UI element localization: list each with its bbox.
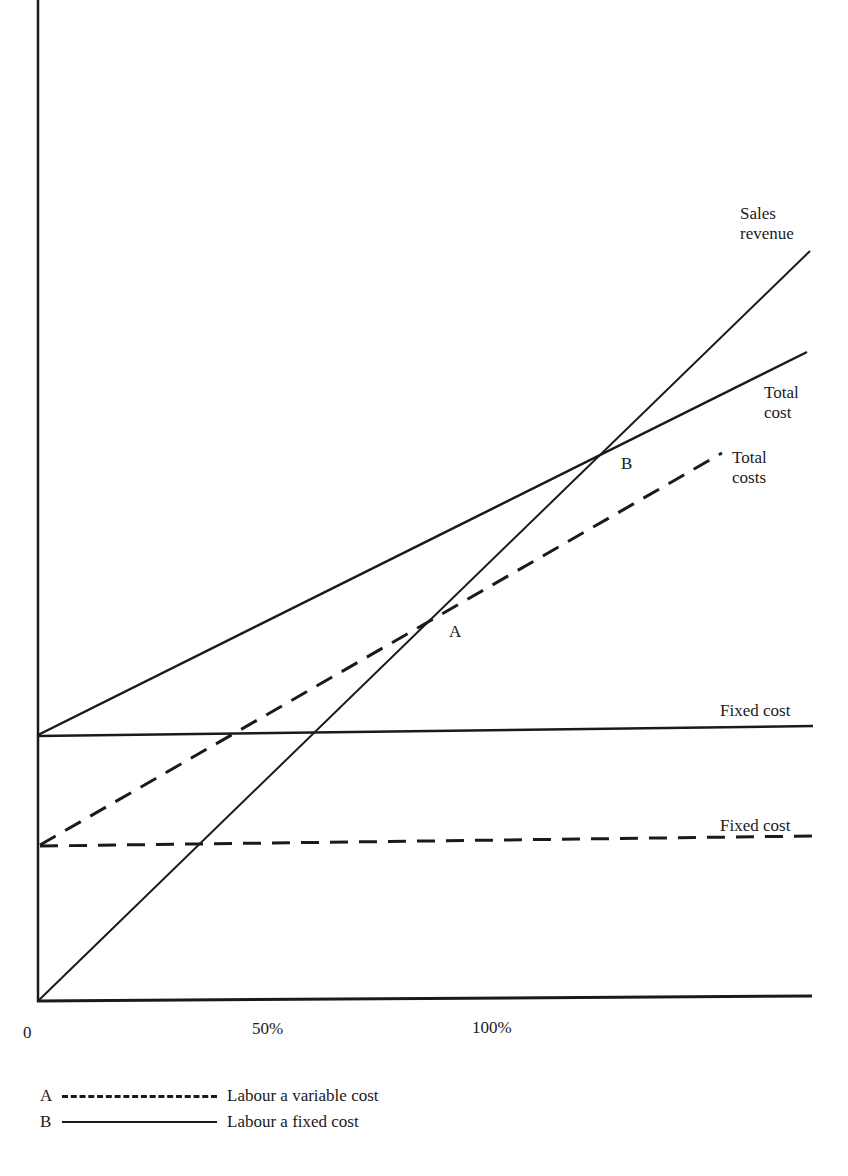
legend-dashed-line-swatch xyxy=(62,1095,217,1098)
point-b-label: B xyxy=(621,454,632,474)
x-axis xyxy=(37,996,812,1001)
total-cost-label-line2: cost xyxy=(764,403,799,423)
legend-key-b: B xyxy=(40,1112,62,1132)
fixed-cost-line xyxy=(38,726,813,736)
sales-revenue-label-line2: revenue xyxy=(740,224,794,244)
fixed-cost-dashed-label: Fixed cost xyxy=(720,816,790,836)
fixed-cost-solid-label: Fixed cost xyxy=(720,701,790,721)
legend-label-a: Labour a variable cost xyxy=(227,1086,379,1106)
total-costs-dashed-line xyxy=(40,453,722,845)
x-tick-50: 50% xyxy=(252,1019,283,1039)
x-tick-0: 0 xyxy=(23,1023,32,1043)
x-tick-100: 100% xyxy=(472,1018,512,1038)
total-cost-label-line1: Total xyxy=(764,383,799,403)
legend-key-a: A xyxy=(40,1086,62,1106)
sales-revenue-label-line1: Sales xyxy=(740,204,794,224)
total-costs-label: Total costs xyxy=(732,448,767,488)
chart-plot xyxy=(0,0,848,1176)
fixed-cost-dashed-line xyxy=(40,836,813,846)
legend-row-b: B Labour a fixed cost xyxy=(40,1112,359,1132)
total-cost-label: Total cost xyxy=(764,383,799,423)
point-a-label: A xyxy=(449,622,461,642)
legend-label-b: Labour a fixed cost xyxy=(227,1112,359,1132)
total-costs-label-line2: costs xyxy=(732,468,767,488)
legend-row-a: A Labour a variable cost xyxy=(40,1086,379,1106)
total-cost-line xyxy=(38,352,807,735)
legend-solid-line-swatch xyxy=(62,1121,217,1123)
total-costs-label-line1: Total xyxy=(732,448,767,468)
sales-revenue-label: Sales revenue xyxy=(740,204,794,244)
